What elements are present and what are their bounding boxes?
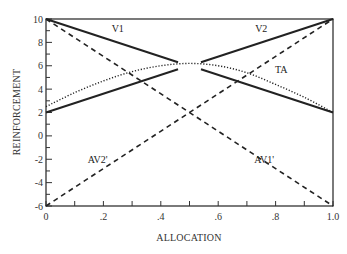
series-v2-label: V2: [255, 23, 267, 34]
series-av1-label: AV1': [254, 154, 274, 165]
y-tick-label: 8: [38, 37, 43, 48]
x-tick-label: .2: [100, 211, 108, 222]
x-axis-ticks: 0.2.4.6.81.0: [44, 201, 340, 222]
x-axis-title: ALLOCATION: [156, 232, 221, 243]
y-tick-label: -2: [35, 154, 43, 165]
series-ta-line: [46, 63, 333, 112]
series-v2-line: [46, 69, 178, 112]
x-tick-label: 0: [44, 211, 49, 222]
y-tick-label: 2: [38, 107, 43, 118]
series-v1-label: V1: [112, 23, 124, 34]
x-tick-label: .8: [272, 211, 280, 222]
x-tick-label: .6: [214, 211, 222, 222]
series-ta-label: TA: [275, 64, 288, 75]
y-axis-title: REINFORCEMENT: [11, 69, 22, 156]
series-av2-label: AV2': [88, 154, 108, 165]
y-tick-label: 4: [38, 84, 43, 95]
y-tick-label: 6: [38, 60, 43, 71]
chart: 0.2.4.6.81.0 -6-4-20246810 V1V2TAAV1'AV2…: [0, 0, 347, 254]
y-tick-label: 0: [38, 130, 43, 141]
x-tick-label: .4: [157, 211, 165, 222]
y-tick-label: 10: [33, 14, 43, 25]
y-tick-label: -6: [35, 201, 43, 212]
x-tick-label: 1.0: [327, 211, 340, 222]
y-tick-label: -4: [35, 177, 43, 188]
series-layer: [46, 19, 333, 206]
series-v1-line: [201, 69, 333, 112]
